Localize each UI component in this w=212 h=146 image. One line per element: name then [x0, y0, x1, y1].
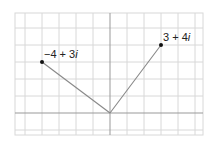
points: −4 + 3i3 + 4i [40, 31, 191, 64]
imaginary-unit: i [188, 31, 191, 43]
imaginary-unit: i [75, 48, 78, 60]
point-marker [40, 60, 44, 64]
point-label: −4 + 3i [44, 48, 78, 60]
complex-plane: −4 + 3i3 + 4i [0, 0, 212, 146]
point-label-text: −4 + 3 [44, 48, 75, 60]
point-label: 3 + 4i [163, 31, 191, 43]
point-label-text: 3 + 4 [163, 31, 188, 43]
point-marker [159, 43, 163, 47]
